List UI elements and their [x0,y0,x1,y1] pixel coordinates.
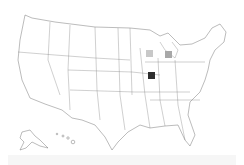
marker-illinois [148,72,155,79]
marker-michigan [165,51,172,58]
us-map [0,0,244,165]
alaska [20,130,48,150]
marker-wisconsin [146,50,153,57]
hawaii [56,133,75,144]
footer-bar [8,155,236,165]
